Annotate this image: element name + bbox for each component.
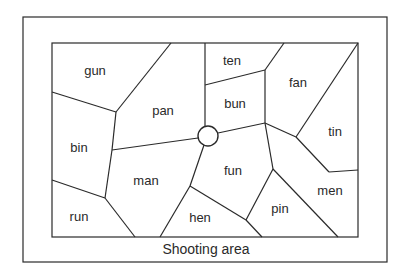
region-fun[interactable]: fun (224, 163, 242, 178)
region-ten[interactable]: ten (223, 53, 241, 68)
center-target-circle[interactable] (198, 126, 218, 146)
region-tin[interactable]: tin (328, 124, 342, 139)
region-men[interactable]: men (317, 183, 342, 198)
shooting-area-caption: Shooting area (162, 241, 249, 257)
region-man[interactable]: man (133, 173, 158, 188)
region-bin[interactable]: bin (70, 140, 87, 155)
region-hen[interactable]: hen (189, 210, 211, 225)
region-gun[interactable]: gun (84, 63, 106, 78)
region-bun[interactable]: bun (224, 96, 246, 111)
region-pin[interactable]: pin (271, 201, 288, 216)
region-pan[interactable]: pan (152, 103, 174, 118)
region-run[interactable]: run (70, 209, 89, 224)
region-fan[interactable]: fan (289, 75, 307, 90)
word-shooting-diagram (0, 0, 412, 274)
